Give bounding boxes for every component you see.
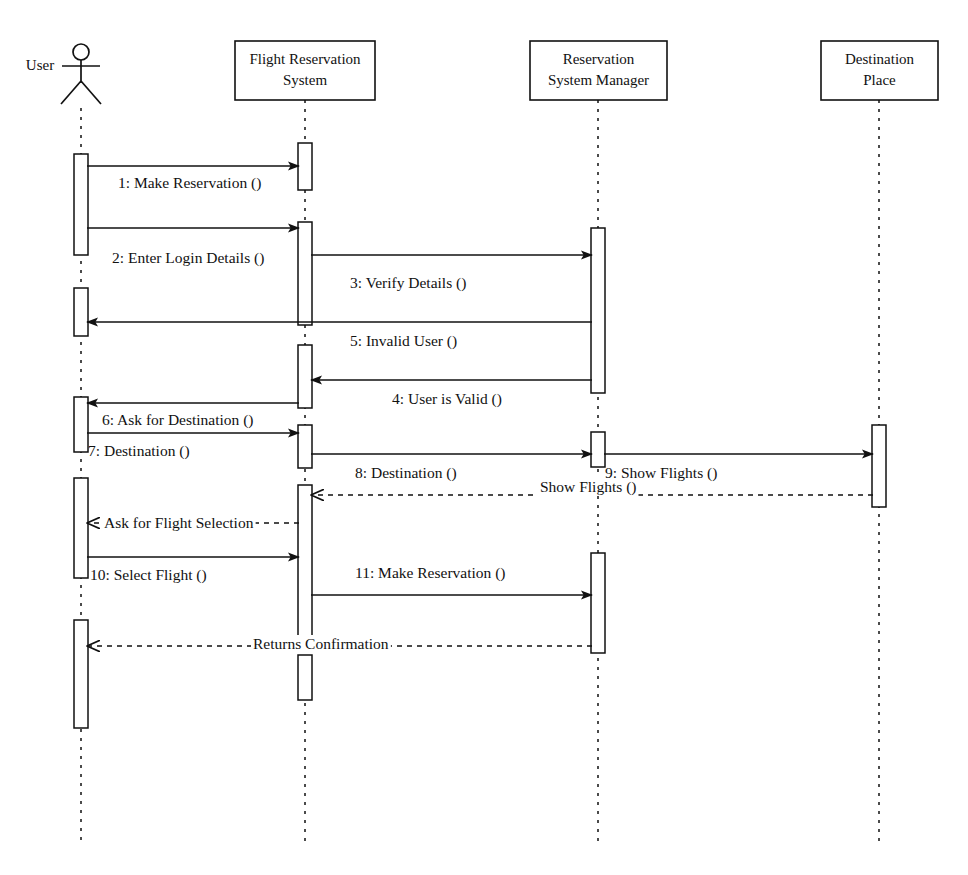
message-label-6: 7: Destination () (88, 442, 190, 460)
activation-bar-user-4 (74, 620, 88, 728)
activation-bars (74, 143, 886, 728)
lifeline-box-rsm[interactable] (530, 41, 667, 100)
lifeline-box-dest[interactable] (821, 41, 938, 100)
message-label-4: 4: User is Valid () (392, 390, 502, 408)
lifeline-header-rsm[interactable]: ReservationSystem Manager (530, 41, 667, 100)
activation-bar-user-0 (74, 154, 88, 255)
activation-bar-user-3 (74, 478, 88, 578)
lifeline-label-user: User (26, 57, 54, 73)
lifeline-dashes (81, 100, 879, 845)
activation-bar-frs-7 (298, 345, 312, 408)
sequence-diagram-canvas: UserFlight ReservationSystemReservationS… (0, 0, 968, 875)
lifeline-label-frs-line1: Flight Reservation (249, 51, 361, 67)
message-label-7: 8: Destination () (355, 464, 457, 482)
uml-sequence-diagram: UserFlight ReservationSystemReservationS… (0, 0, 968, 875)
lifeline-header-dest[interactable]: DestinationPlace (821, 41, 938, 100)
message-label-10: Ask for Flight Selection (104, 514, 254, 531)
actor-leg-left-icon (61, 81, 81, 104)
activation-bar-dest-14 (872, 425, 886, 507)
activation-bar-frs-8 (298, 425, 312, 468)
lifeline-label-dest-line1: Destination (845, 51, 915, 67)
message-label-13: Returns Confirmation (253, 635, 389, 652)
activation-bar-rsm-12 (591, 432, 605, 467)
activation-bar-frs-6 (298, 222, 312, 325)
message-label-12: 11: Make Reservation () (355, 564, 506, 582)
lifeline-label-dest-line2: Place (863, 72, 896, 88)
activation-bar-frs-5 (298, 143, 312, 190)
lifeline-header-frs[interactable]: Flight ReservationSystem (235, 41, 375, 100)
activation-bar-frs-10 (298, 655, 312, 700)
message-label-0: 1: Make Reservation () (118, 174, 261, 192)
message-label-1: 2: Enter Login Details () (112, 249, 264, 267)
lifeline-headers: UserFlight ReservationSystemReservationS… (26, 41, 938, 104)
actor-leg-right-icon (81, 81, 101, 104)
lifeline-header-actor-user[interactable]: User (26, 44, 101, 104)
message-label-9: Show Flights () (540, 478, 636, 496)
message-label-3: 5: Invalid User () (350, 332, 457, 350)
actor-head-icon (73, 44, 89, 60)
lifeline-box-frs[interactable] (235, 41, 375, 100)
lifeline-label-frs-line2: System (283, 72, 328, 88)
message-label-11: 10: Select Flight () (90, 566, 207, 584)
lifeline-label-rsm-line1: Reservation (563, 51, 635, 67)
message-label-5: 6: Ask for Destination () (102, 411, 254, 429)
lifeline-label-rsm-line2: System Manager (548, 72, 649, 88)
message-label-2: 3: Verify Details () (350, 274, 466, 292)
activation-bar-frs-9 (298, 485, 312, 645)
message-labels: 1: Make Reservation ()2: Enter Login Det… (88, 174, 717, 652)
activation-bar-user-2 (74, 397, 88, 452)
activation-bar-rsm-11 (591, 228, 605, 393)
activation-bar-rsm-13 (591, 553, 605, 653)
activation-bar-user-1 (74, 288, 88, 336)
